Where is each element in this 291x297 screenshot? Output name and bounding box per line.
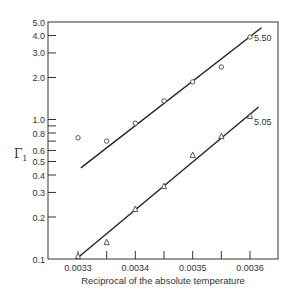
fit-line-5.05	[76, 107, 258, 259]
x-axis-title: Reciprocal of the absolute temperature	[81, 275, 245, 286]
y-tick-label: 0.2	[32, 213, 45, 223]
x-tick-label: 0.0033	[64, 263, 92, 273]
triangle-marker	[104, 239, 109, 245]
circle-marker	[190, 80, 194, 84]
fit-lines	[76, 28, 261, 259]
y-tick-label: 0.1	[32, 255, 45, 265]
circle-marker	[76, 136, 80, 140]
y-tick-label: 5.0	[32, 18, 45, 28]
y-tick-label: 0.4	[32, 171, 45, 181]
y-tick-label: 0.6	[32, 146, 45, 156]
y-tick-label: 4.0	[32, 31, 45, 41]
y-tick-label: 0.8	[32, 129, 45, 139]
chart: 0.10.20.30.40.50.60.81.02.03.04.05.0 0.0…	[0, 0, 291, 297]
y-axis-ticks: 0.10.20.30.40.50.60.81.02.03.04.05.0	[32, 18, 56, 265]
series-labels: 5.505.05	[254, 33, 272, 127]
x-tick-label: 0.0036	[236, 263, 264, 273]
circle-marker	[133, 121, 137, 125]
x-tick-label: 0.0035	[179, 263, 207, 273]
y-tick-label: 0.5	[32, 157, 45, 167]
y-tick-label: 0.3	[32, 188, 45, 198]
x-tick-label: 0.0034	[122, 263, 150, 273]
circle-marker	[104, 139, 108, 143]
circle-marker	[248, 35, 252, 39]
plot-frame	[48, 22, 278, 259]
circle-marker	[162, 99, 166, 103]
y-tick-label: 1.0	[32, 115, 45, 125]
triangle-marker	[190, 152, 195, 158]
x-axis-ticks: 0.00330.00340.00350.0036	[64, 251, 264, 273]
y-axis-title: Γ1	[14, 147, 27, 163]
series-label-5.05: 5.05	[254, 117, 272, 127]
y-tick-label: 3.0	[32, 48, 45, 58]
fit-line-5.50	[81, 28, 262, 168]
circle-marker	[219, 65, 223, 69]
data-markers	[75, 35, 252, 259]
y-tick-label: 2.0	[32, 73, 45, 83]
series-label-5.50: 5.50	[254, 33, 272, 43]
